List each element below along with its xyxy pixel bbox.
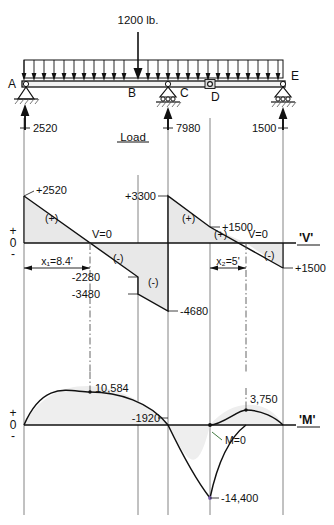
shear-value-e: +1500 [295, 262, 326, 274]
load-caption: Load [120, 131, 146, 143]
moment-axis-label: 'M' [299, 413, 315, 427]
reaction-value-e: 1500 [252, 122, 276, 134]
reaction-value-c: 7980 [176, 122, 200, 134]
shear-sign-cd: (+) [182, 212, 195, 224]
moment-hinge-label: M=0 [225, 434, 246, 446]
moment-value-max-ab: 10,584 [95, 382, 129, 394]
internal-hinge-d [205, 80, 215, 89]
shear-value-b-minus: -2280 [72, 271, 100, 283]
node-label-d: D [211, 90, 220, 104]
moment-peak-dot-ab [88, 390, 91, 393]
beam-member [22, 81, 285, 87]
shear-value-a: +2520 [36, 184, 67, 196]
reaction-arrows [21, 104, 288, 130]
figure-canvas: 1200 lb. Load A B C D E 2520 7980 1500 +… [0, 0, 334, 525]
shear-value-c-deep: -4680 [180, 305, 208, 317]
shear-sign-d: (+) [214, 228, 227, 240]
shear-sign-bc: (-) [148, 276, 159, 288]
point-load-arrow [134, 32, 143, 80]
shear-sign-e: (-) [264, 249, 275, 261]
node-label-b: B [128, 86, 136, 100]
moment-diagram [24, 372, 320, 500]
shear-axis-minus: - [11, 247, 15, 261]
shear-axis-label: 'V' [299, 231, 313, 245]
node-label-e: E [291, 69, 299, 83]
station-lines [24, 118, 283, 515]
moment-peak-dot-de [244, 408, 247, 411]
load-diagram [14, 32, 296, 130]
point-load-label: 1200 lb. [118, 14, 159, 26]
moment-hinge-leader [212, 432, 222, 440]
shear-zero-left: V=0 [92, 228, 112, 240]
shear-zero-right: V=0 [248, 228, 268, 240]
moment-value-c: -14,400 [221, 492, 258, 504]
moment-value-b: -1920 [132, 412, 160, 424]
moment-value-max-de: 3,750 [250, 393, 278, 405]
moment-hinge-dot [208, 423, 212, 427]
shear-value-c-left: -3480 [72, 288, 100, 300]
shear-diagram [24, 191, 320, 372]
shear-dim-x2-label: x₂=5' [216, 255, 239, 267]
shear-sign-ab: (+) [45, 212, 58, 224]
moment-axis-minus: - [11, 429, 15, 443]
beam-diagram-svg: 1200 lb. Load A B C D E 2520 7980 1500 +… [0, 0, 334, 525]
shear-sign-b: (-) [113, 252, 124, 264]
shear-dim-x1-label: x₁=8.4' [41, 255, 73, 267]
shear-value-c-right: +3300 [125, 190, 156, 202]
reaction-value-a: 2520 [33, 122, 57, 134]
node-label-c: C [180, 86, 189, 100]
node-label-a: A [8, 77, 16, 91]
